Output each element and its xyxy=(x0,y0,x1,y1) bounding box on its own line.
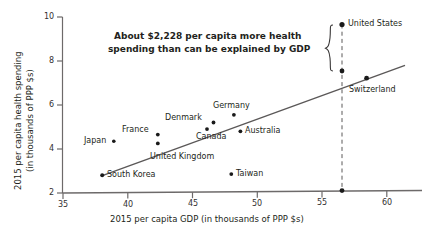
point-label-australia: Australia xyxy=(245,127,280,135)
point-label-united-kingdom: United Kingdom xyxy=(150,153,214,161)
y-tick-label-8: 8 xyxy=(49,57,54,65)
y-tick-label-4: 4 xyxy=(49,145,54,153)
x-tick-label-60: 60 xyxy=(382,199,392,207)
x-axis-line xyxy=(63,191,423,194)
x-tick-label-55: 55 xyxy=(317,199,327,207)
x-tick-label-35: 35 xyxy=(58,201,68,209)
curly-brace-icon xyxy=(326,25,334,71)
point-label-taiwan: Taiwan xyxy=(236,170,263,178)
data-point-taiwan xyxy=(229,172,233,176)
point-label-south-korea: South Korea xyxy=(107,171,155,179)
data-point-denmark xyxy=(212,121,216,125)
data-point-south-korea xyxy=(100,173,104,177)
data-point-canada xyxy=(205,127,209,131)
y-tick-label-6: 6 xyxy=(49,101,54,109)
x-tick-label-50: 50 xyxy=(252,200,262,208)
data-point-united-kingdom xyxy=(156,142,160,146)
point-label-switzerland: Switzerland xyxy=(349,86,396,94)
x-tick-label-45: 45 xyxy=(188,200,198,208)
point-label-germany: Germany xyxy=(213,102,250,110)
point-label-france: France xyxy=(122,126,149,134)
point-label-canada: Canada xyxy=(196,133,226,141)
y-axis-ticks xyxy=(57,17,63,193)
y-axis-title-line1: 2015 per capita health spending xyxy=(14,51,23,190)
annotation-line1: About $2,228 per capita more health xyxy=(114,30,301,42)
data-point-us-baseline xyxy=(340,188,345,193)
y-axis-title-line2: (in thousands of PPP $s) xyxy=(26,69,35,172)
chart-screenshot: 10 8 6 4 2 35 40 45 50 55 60 2015 per ca… xyxy=(0,0,425,235)
data-point-germany xyxy=(232,113,236,117)
data-point-united-states xyxy=(339,22,344,27)
data-point-australia xyxy=(239,129,243,133)
data-point-japan xyxy=(112,139,116,143)
data-point-france xyxy=(156,133,160,137)
data-point-us-predicted xyxy=(340,69,345,74)
point-label-united-states: United States xyxy=(348,20,402,28)
annotation-line2: spending than can be explained by GDP xyxy=(108,43,310,55)
trend-line xyxy=(103,65,405,175)
x-axis-title: 2015 per capita GDP (in thousands of PPP… xyxy=(110,215,304,224)
data-point-switzerland xyxy=(364,76,369,81)
point-label-japan: Japan xyxy=(84,137,106,145)
x-tick-label-40: 40 xyxy=(123,201,133,209)
y-tick-label-2: 2 xyxy=(49,189,54,197)
point-label-denmark: Denmark xyxy=(165,114,202,122)
y-tick-label-10: 10 xyxy=(44,13,54,21)
